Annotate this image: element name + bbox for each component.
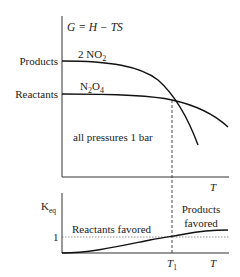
products-favored-line1: Products [182, 203, 221, 215]
bottom-x-label: T [210, 257, 217, 269]
reactants-label: Reactants [15, 88, 58, 100]
reactants-curve [62, 94, 228, 127]
pressure-annotation: all pressures 1 bar [73, 131, 153, 143]
keq-label: Keq [41, 200, 56, 215]
products-favored-line2: favored [184, 217, 218, 229]
reactants-favored-label: Reactants favored [72, 223, 152, 235]
top-x-label: T [210, 181, 217, 193]
gibbs-energy-diagram: G = H − TS Products Reactants 2 NO2 N2O4… [0, 0, 240, 277]
n2o4-label: N2O4 [80, 80, 104, 95]
products-label: Products [20, 55, 59, 67]
gibbs-equation: G = H − TS [67, 21, 123, 33]
t1-tick: T1 [167, 257, 177, 272]
keq-one-tick: 1 [53, 231, 59, 243]
